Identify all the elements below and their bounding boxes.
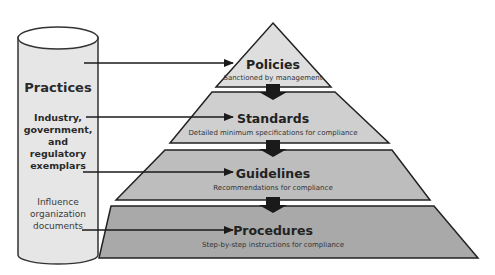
cylinder-group-2-line-1: Influence bbox=[37, 197, 79, 207]
tier-policies-title: Policies bbox=[246, 57, 300, 72]
tier-guidelines-subtitle: Recommendations for compliance bbox=[213, 184, 332, 192]
tier-standards-subtitle: Detailed minimum specifications for comp… bbox=[188, 129, 357, 137]
influence-arrows bbox=[82, 63, 233, 230]
cylinder-group-1-line-2: government, bbox=[24, 124, 93, 135]
cylinder-group-1-line-4: regulatory bbox=[30, 148, 87, 159]
cylinder-group-2-line-2: organization bbox=[30, 209, 86, 219]
tier-procedures-subtitle: Step-by-step instructions for compliance bbox=[202, 241, 344, 249]
policy-hierarchy-diagram: Practices Industry, government, and regu… bbox=[0, 0, 495, 275]
cylinder-top bbox=[18, 27, 98, 49]
cylinder-title: Practices bbox=[24, 80, 92, 95]
cylinder-group-2-line-3: documents bbox=[33, 221, 83, 231]
cylinder-group-1-line-5: exemplars bbox=[30, 160, 86, 171]
tier-policies-subtitle: Sanctioned by management bbox=[223, 74, 322, 82]
cylinder-group-1-line-3: and bbox=[48, 136, 68, 147]
tier-standards-title: Standards bbox=[237, 111, 309, 126]
tier-procedures-title: Procedures bbox=[233, 223, 313, 238]
tier-guidelines-title: Guidelines bbox=[236, 166, 310, 181]
cylinder-group-1-line-1: Industry, bbox=[34, 112, 82, 123]
